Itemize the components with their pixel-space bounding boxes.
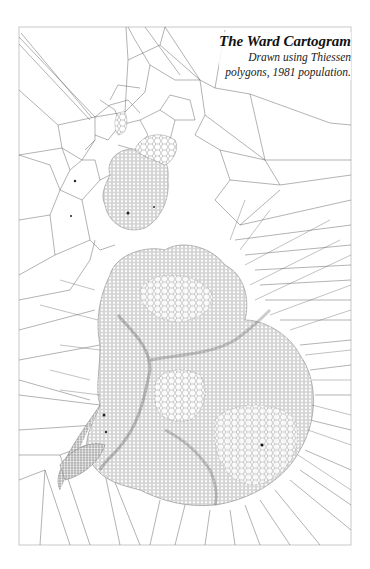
cartogram-map bbox=[0, 0, 370, 569]
map-title: The Ward Cartogram bbox=[219, 32, 351, 50]
map-subtitle-line2: polygons, 1981 population. bbox=[219, 65, 351, 80]
map-legend-title: The Ward Cartogram Drawn using Thiessen … bbox=[219, 32, 351, 80]
map-subtitle-line1: Drawn using Thiessen bbox=[219, 50, 351, 65]
